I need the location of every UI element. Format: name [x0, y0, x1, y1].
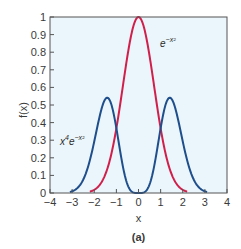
x-tick-label: −2 [88, 196, 101, 208]
x-axis-label: x [136, 212, 142, 224]
y-tick-label: 0.1 [31, 169, 46, 181]
x-tick-label: 4 [224, 196, 230, 208]
y-tick-label: 0.6 [31, 81, 46, 93]
x-tick-label: 1 [158, 196, 164, 208]
y-tick-label: 0.5 [31, 99, 46, 111]
y-axis-label: f(x) [17, 102, 29, 118]
x-tick-label: −3 [66, 196, 79, 208]
figure-caption: (a) [132, 231, 146, 243]
y-tick-label: 1 [40, 11, 46, 23]
x-tick-label: 2 [180, 196, 186, 208]
x-tick-label: 0 [135, 196, 141, 208]
y-tick-label: 0.8 [31, 46, 46, 58]
chart: 00.10.20.30.40.50.60.70.80.91 −4−3−2−101… [0, 0, 241, 249]
y-tick-label: 0.9 [31, 29, 46, 41]
plot-background [50, 17, 227, 193]
y-tick-label: 0.3 [31, 134, 46, 146]
x-tick-label: −1 [110, 196, 123, 208]
x-tick-label: 3 [202, 196, 208, 208]
y-tick-label: 0.7 [31, 64, 46, 76]
x-tick-label: −4 [44, 196, 57, 208]
y-tick-label: 0.4 [31, 117, 46, 129]
y-tick-label: 0.2 [31, 152, 46, 164]
